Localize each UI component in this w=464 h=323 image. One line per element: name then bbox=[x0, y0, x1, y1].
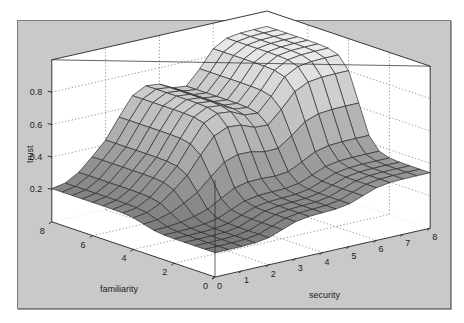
z-tick-label: 0.8 bbox=[30, 87, 43, 97]
z-axis-label: trust bbox=[25, 145, 35, 163]
z-tick-label: 0.2 bbox=[30, 184, 43, 194]
y-tick-label: 0 bbox=[203, 281, 208, 291]
x-tick-label: 4 bbox=[325, 257, 330, 267]
x-tick-label: 8 bbox=[432, 232, 437, 242]
y-tick-label: 6 bbox=[81, 240, 86, 250]
x-tick-label: 5 bbox=[352, 251, 357, 261]
x-tick-label: 1 bbox=[244, 275, 249, 285]
x-tick-label: 6 bbox=[378, 244, 383, 254]
surface-plot: 0.20.40.60.8 012345678 02468 trust famil… bbox=[0, 0, 464, 323]
x-axis-label: security bbox=[309, 290, 341, 300]
y-axis-label: familiarity bbox=[100, 284, 139, 294]
y-tick-label: 4 bbox=[121, 253, 126, 263]
y-tick-label: 8 bbox=[40, 226, 45, 236]
x-tick-label: 0 bbox=[217, 281, 222, 291]
x-tick-label: 7 bbox=[405, 238, 410, 248]
y-tick-label: 2 bbox=[162, 267, 167, 277]
x-tick-label: 3 bbox=[298, 263, 303, 273]
z-axis-ticks: 0.20.40.60.8 bbox=[30, 87, 52, 194]
x-tick-label: 2 bbox=[271, 269, 276, 279]
z-tick-label: 0.6 bbox=[30, 120, 43, 130]
